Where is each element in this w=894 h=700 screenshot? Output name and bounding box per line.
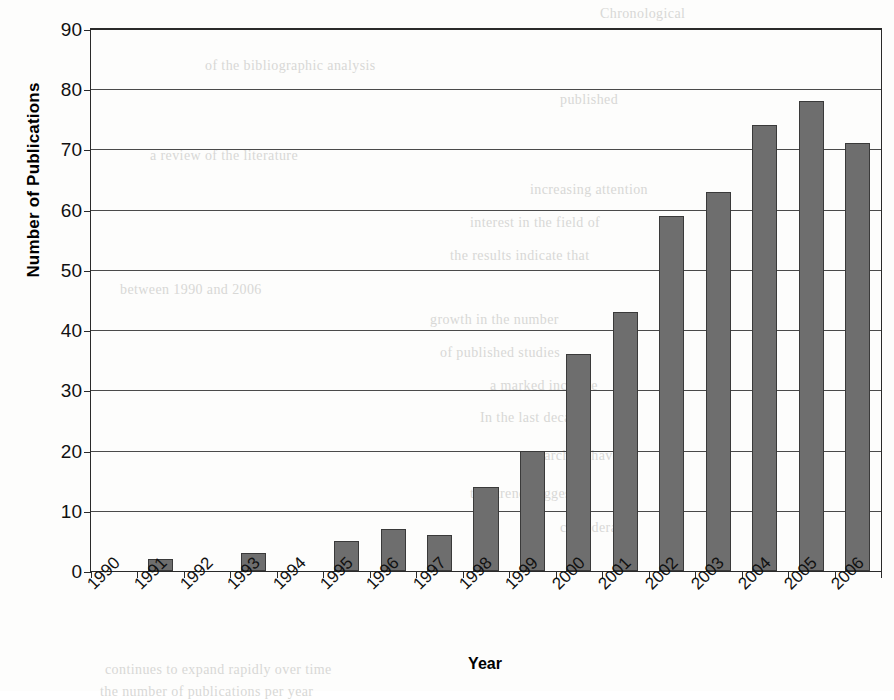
bar-slot	[788, 29, 834, 571]
bar[interactable]	[520, 451, 545, 571]
y-axis-tick-mark	[84, 271, 91, 272]
x-axis-label-slot: 1994	[276, 572, 322, 652]
bars-group	[91, 29, 881, 571]
x-axis-label-slot: 2003	[694, 572, 740, 652]
y-axis-title: Number of Publications	[24, 50, 44, 310]
bar[interactable]	[799, 101, 824, 571]
y-axis-tick-label: 80	[61, 79, 82, 101]
x-axis-label-slot: 2004	[741, 572, 787, 652]
y-axis-tick-label: 70	[61, 139, 82, 161]
x-axis-label-slot: 1990	[90, 572, 136, 652]
y-axis-tick-mark	[84, 150, 91, 151]
bar[interactable]	[659, 216, 684, 571]
x-axis-label-slot: 1992	[183, 572, 229, 652]
y-axis-tick-mark	[84, 211, 91, 212]
bar-slot	[509, 29, 555, 571]
bar[interactable]	[566, 354, 591, 571]
bar-slot	[649, 29, 695, 571]
y-axis-tick-mark	[84, 452, 91, 453]
bar-slot	[230, 29, 276, 571]
bar-slot	[835, 29, 881, 571]
x-axis-label-slot: 1995	[322, 572, 368, 652]
bar[interactable]	[613, 312, 638, 571]
y-axis-tick-mark	[84, 512, 91, 513]
y-axis-tick-label: 10	[61, 501, 82, 523]
bar-slot	[556, 29, 602, 571]
y-axis-tick-label: 50	[61, 260, 82, 282]
x-axis-label-slot: 1998	[462, 572, 508, 652]
bar[interactable]	[706, 192, 731, 571]
y-axis-tick-label: 40	[61, 320, 82, 342]
x-axis-title: Year	[90, 655, 880, 673]
x-axis-label-slot: 2001	[601, 572, 647, 652]
bar-slot	[323, 29, 369, 571]
bar-slot	[463, 29, 509, 571]
bar-slot	[695, 29, 741, 571]
x-axis-label-slot: 2005	[787, 572, 833, 652]
bar-slot	[370, 29, 416, 571]
y-axis-tick-mark	[84, 391, 91, 392]
x-axis-tick-labels: 1990199119921993199419951996199719981999…	[90, 572, 880, 652]
y-axis-tick-label: 0	[71, 561, 82, 583]
bar[interactable]	[752, 125, 777, 571]
x-axis-label-slot: 1999	[508, 572, 554, 652]
x-axis-label-slot: 2002	[648, 572, 694, 652]
bar-slot	[742, 29, 788, 571]
y-axis-tick-label: 60	[61, 200, 82, 222]
x-axis-label-slot: 2006	[834, 572, 880, 652]
bar-slot	[416, 29, 462, 571]
bar-slot	[137, 29, 183, 571]
y-axis-tick-mark	[84, 90, 91, 91]
bar-slot	[91, 29, 137, 571]
bar-slot	[602, 29, 648, 571]
bar[interactable]	[845, 143, 870, 571]
plot-area: 0102030405060708090	[90, 28, 882, 572]
x-axis-label-slot: 1997	[415, 572, 461, 652]
y-axis-tick-label: 90	[61, 19, 82, 41]
x-axis-label-slot: 2000	[555, 572, 601, 652]
x-axis-tick-mark	[881, 571, 882, 578]
y-axis-tick-mark	[84, 30, 91, 31]
x-axis-label-slot: 1993	[229, 572, 275, 652]
y-axis-tick-mark	[84, 331, 91, 332]
bar-slot	[184, 29, 230, 571]
bar-slot	[277, 29, 323, 571]
y-axis-tick-label: 20	[61, 441, 82, 463]
x-axis-label-slot: 1996	[369, 572, 415, 652]
x-axis-label-slot: 1991	[136, 572, 182, 652]
y-axis-tick-label: 30	[61, 380, 82, 402]
